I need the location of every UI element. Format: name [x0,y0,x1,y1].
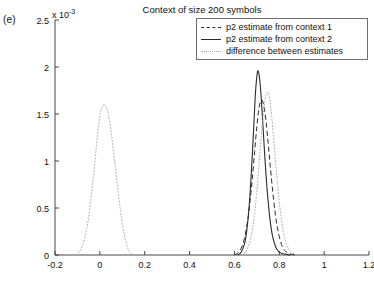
x-tick-label: 0.4 [183,260,196,270]
legend-item-label: p2 estimate from context 1 [226,21,332,33]
y-tick-label: 0 [44,251,49,261]
x-tick-label: 1.2 [363,260,374,270]
legend-item: p2 estimate from context 2 [200,33,364,45]
legend-item: difference between estimates [200,45,364,57]
y-tick-label: 0.5 [36,204,49,214]
x-tick-label: 0.2 [138,260,151,270]
x-tick-label: 0.8 [273,260,286,270]
y-tick-label: 1.5 [36,110,49,120]
x-tick-label: 1 [322,260,327,270]
y-tick-label: 2 [44,63,49,73]
y-tick-label: 2.5 [36,16,49,26]
legend-item-label: difference between estimates [226,45,343,57]
y-tick-label: 1 [44,157,49,167]
series-line [76,105,132,255]
x-tick-label: -0.2 [47,260,63,270]
legend-line-sample-solid-icon [200,34,222,44]
series-line [234,100,295,255]
x-tick-label: 0 [97,260,102,270]
legend-item-label: p2 estimate from context 2 [226,33,332,45]
data-series [76,71,296,255]
figure-container: (e) Context of size 200 symbols x 10-3 -… [0,0,374,282]
legend-line-sample-dashed-icon [200,22,222,32]
legend-item: p2 estimate from context 1 [200,21,364,33]
x-tick-label: 0.6 [228,260,241,270]
series-line [241,92,296,255]
chart-legend: p2 estimate from context 1 p2 estimate f… [196,18,368,60]
legend-line-sample-dotted-icon [200,46,222,56]
